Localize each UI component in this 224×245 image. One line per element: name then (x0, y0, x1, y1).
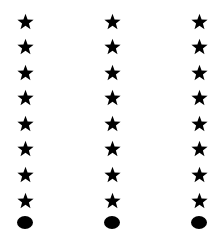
star-icon (191, 13, 208, 30)
star-icon (191, 38, 208, 55)
star-icon (17, 38, 34, 55)
star-icon (104, 64, 121, 81)
star-icon (17, 115, 34, 132)
star-icon (17, 140, 34, 157)
star-icon (17, 13, 34, 30)
star-icon (104, 38, 121, 55)
star-icon (191, 140, 208, 157)
star-icon (191, 166, 208, 183)
star-icon (104, 192, 121, 209)
star-icon (104, 140, 121, 157)
star-icon (191, 192, 208, 209)
oval-icon (104, 216, 120, 229)
star-icon (191, 115, 208, 132)
oval-icon (191, 216, 207, 229)
star-icon (191, 64, 208, 81)
shape-figure (0, 0, 224, 245)
star-icon (104, 115, 121, 132)
star-icon (17, 166, 34, 183)
star-icon (104, 13, 121, 30)
star-icon (17, 192, 34, 209)
star-icon (104, 89, 121, 106)
star-icon (17, 64, 34, 81)
star-icon (104, 166, 121, 183)
oval-icon (17, 216, 33, 229)
star-icon (191, 89, 208, 106)
star-icon (17, 89, 34, 106)
